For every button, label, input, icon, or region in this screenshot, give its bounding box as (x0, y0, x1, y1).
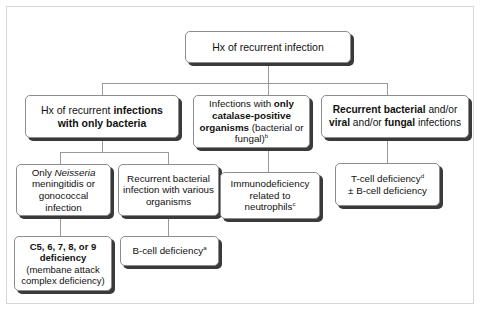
connector-root-stem (268, 63, 269, 83)
node-catalase-positive-label: Infections with only catalase-positive o… (198, 98, 305, 144)
connector-to-bcell (168, 216, 169, 236)
node-neisseria-label: Only Neisseria meningitidis or gonococca… (21, 167, 106, 213)
connector-to-tcell (387, 138, 388, 163)
node-complement-deficiency-label: C5, 6, 7, 8, or 9 deficiency (membane at… (19, 241, 107, 286)
node-various-organisms-label: Recurrent bacterial infection with vario… (123, 173, 214, 208)
connector-to-recurrent-mixed (387, 83, 388, 95)
diagram-frame: Hx of recurrent infection Hx of recurren… (6, 6, 474, 304)
node-tcell-deficiency-label: T-cell deficiencyd± B-cell deficiency (340, 173, 435, 196)
connector-to-various-organisms (168, 152, 169, 164)
node-root[interactable]: Hx of recurrent infection (185, 31, 351, 63)
node-catalase-positive[interactable]: Infections with only catalase-positive o… (193, 95, 310, 148)
connector-row3-left-bus (60, 152, 168, 153)
node-various-organisms[interactable]: Recurrent bacterial infection with vario… (118, 164, 219, 216)
node-tcell-deficiency[interactable]: T-cell deficiencyd± B-cell deficiency (335, 163, 440, 206)
connector-to-neutrophils (268, 148, 269, 172)
node-bcell-deficiency-label: B-cell deficiencya (125, 245, 214, 257)
node-neutrophils[interactable]: Immunodeficiency related to neutrophilsc (220, 172, 320, 219)
node-bcell-deficiency[interactable]: B-cell deficiencya (120, 236, 219, 266)
node-neisseria[interactable]: Only Neisseria meningitidis or gonococca… (16, 164, 111, 216)
connector-to-bacteria-only (102, 83, 103, 95)
connector-to-catalase-positive (268, 83, 269, 95)
node-bacteria-only-label: Hx of recurrent infections with only bac… (30, 104, 174, 129)
node-recurrent-mixed[interactable]: Recurrent bacterial and/or viral and/or … (321, 95, 469, 138)
node-complement-deficiency[interactable]: C5, 6, 7, 8, or 9 deficiency (membane at… (14, 236, 112, 291)
node-neutrophils-label: Immunodeficiency related to neutrophilsc (225, 178, 315, 213)
connector-bacteria-only-stem (102, 138, 103, 152)
node-bacteria-only[interactable]: Hx of recurrent infections with only bac… (25, 95, 179, 138)
flowchart-canvas: Hx of recurrent infection Hx of recurren… (7, 7, 475, 305)
connector-to-complement (60, 216, 61, 236)
node-root-label: Hx of recurrent infection (190, 41, 346, 53)
connector-to-neisseria (60, 152, 61, 164)
node-recurrent-mixed-label: Recurrent bacterial and/or viral and/or … (326, 104, 464, 128)
connector-row2-bus (102, 83, 387, 84)
